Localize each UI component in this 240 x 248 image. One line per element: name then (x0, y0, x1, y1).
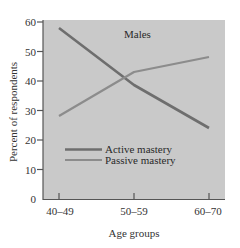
y-tick-label: 50 (25, 46, 37, 58)
x-tick-label: 60–70 (194, 205, 222, 217)
y-tick-label: 30 (25, 105, 37, 117)
x-tick-label: 50–59 (120, 205, 148, 217)
line-chart: 0 10 20 30 40 50 60 40–49 50–59 60–70 Ag… (0, 0, 240, 248)
x-tick-labels: 40–49 50–59 60–70 (46, 205, 222, 217)
legend-label-passive: Passive mastery (105, 154, 176, 166)
y-tick-label: 40 (25, 75, 37, 87)
chart-title: Males (124, 28, 151, 40)
y-tick-label: 60 (25, 16, 37, 28)
y-tick-label: 0 (31, 193, 37, 205)
y-ticks (37, 22, 43, 170)
y-tick-labels: 0 10 20 30 40 50 60 (25, 16, 37, 205)
y-axis-title: Percent of respondents (7, 62, 19, 162)
y-tick-label: 10 (25, 164, 37, 176)
y-tick-label: 20 (25, 134, 37, 146)
x-tick-label: 40–49 (46, 205, 74, 217)
x-axis-title: Age groups (108, 227, 159, 239)
